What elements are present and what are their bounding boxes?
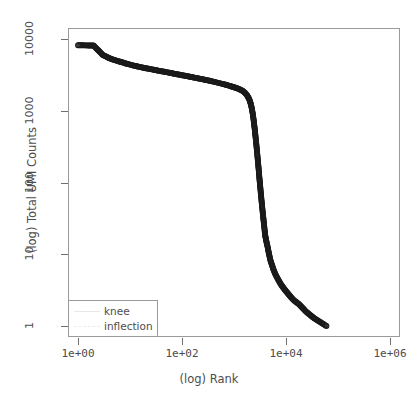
legend-swatch-inflection xyxy=(74,326,100,327)
y-tick-mark xyxy=(61,326,68,327)
y-tick-mark xyxy=(61,39,68,40)
legend-swatch-knee xyxy=(74,311,100,312)
x-tick-mark xyxy=(390,338,391,345)
x-tick-label: 1e+00 xyxy=(43,347,113,360)
x-tick-label: 1e+06 xyxy=(355,347,418,360)
x-axis-label: (log) Rank xyxy=(0,372,418,386)
y-axis-label-wrap: (log) Total UMI Counts xyxy=(0,183,182,199)
x-tick-mark xyxy=(182,338,183,345)
x-tick-label: 1e+02 xyxy=(147,347,217,360)
legend-label-knee: knee xyxy=(104,304,130,319)
legend-item-inflection: inflection xyxy=(69,319,157,334)
y-tick-mark xyxy=(61,111,68,112)
x-tick-mark xyxy=(286,338,287,345)
y-tick-mark xyxy=(61,254,68,255)
legend-item-knee: knee xyxy=(69,304,157,319)
x-tick-label: 1e+04 xyxy=(251,347,321,360)
legend: knee inflection xyxy=(68,300,158,337)
x-tick-mark xyxy=(78,338,79,345)
legend-label-inflection: inflection xyxy=(104,319,153,334)
barcode-rank-plot-figure: 110100100010000 1e+001e+021e+041e+06 (lo… xyxy=(0,0,418,409)
y-axis-label: (log) Total UMI Counts xyxy=(25,40,39,340)
